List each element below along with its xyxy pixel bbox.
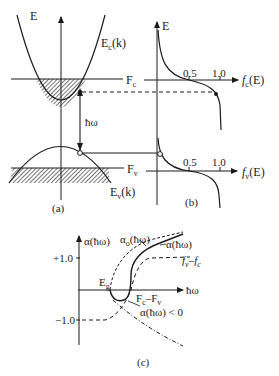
panel-b-E-label: E — [162, 19, 169, 33]
valence-filled-states — [9, 168, 110, 183]
fv-axis-label: fv(E) — [242, 165, 265, 181]
tick-minus-one: −1.0 — [55, 314, 75, 326]
conduction-band-label: Ec(k) — [101, 36, 126, 52]
panel-a-band-diagram: E Ec(k) Fc ħω Fv Ev(k) (a) — [9, 9, 215, 215]
fv-tick-half: 0.5 — [183, 156, 197, 168]
tick-plus-one: +1.0 — [53, 252, 73, 264]
eg-label: Eg — [99, 276, 110, 291]
alpha-label: α(ħω) — [166, 238, 192, 251]
panel-c-absorption: α(ħω) αo(ħω) α(ħω) fv–fc +1.0 −1.0 Eg ħω… — [53, 232, 201, 369]
electron-dot — [78, 90, 82, 94]
alpha-negative-label: α(ħω) < 0 — [140, 306, 184, 319]
fc-tick-half: 0.5 — [183, 67, 197, 79]
hole-dot — [78, 151, 83, 156]
valence-band-label: Ev(k) — [110, 185, 135, 201]
semiconductor-gain-diagram: E Ec(k) Fc ħω Fv Ev(k) (a) E 0.5 1.0 fc(… — [0, 0, 279, 376]
fv-tick-one: 1.0 — [212, 156, 226, 168]
panel-a-E-label: E — [30, 9, 37, 23]
alpha-axis-label: α(ħω) — [84, 235, 110, 248]
photon-energy-label: ħω — [85, 116, 98, 128]
panel-a-caption: (a) — [52, 202, 65, 215]
panel-c-caption: (c) — [137, 356, 150, 369]
panel-b-occupation-functions: E 0.5 1.0 fc(E) 0.5 1.0 fv(E) (b) — [144, 19, 265, 209]
fc-fv-label: Fc–Fv — [136, 292, 161, 307]
panel-b-caption: (b) — [185, 196, 198, 209]
fv-fc-label: fv–fc — [182, 254, 201, 269]
hw-axis-label: ħω — [186, 284, 199, 296]
fc-tick-one: 1.0 — [212, 67, 226, 79]
fermi-c-label: Fc — [126, 73, 137, 89]
fc-axis-label: fc(E) — [242, 73, 264, 89]
fermi-v-label: Fv — [127, 162, 138, 178]
